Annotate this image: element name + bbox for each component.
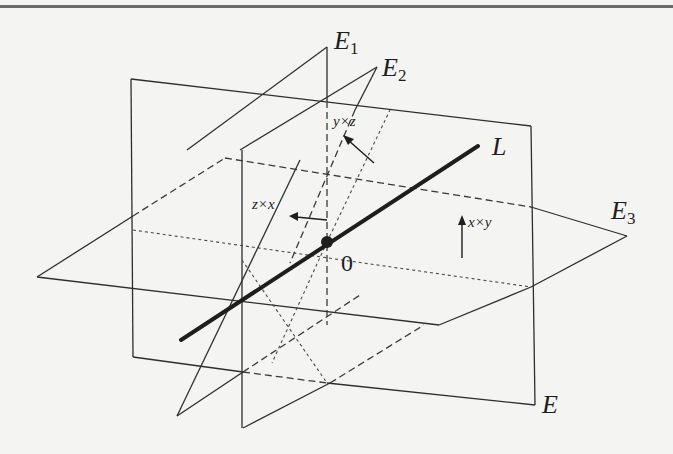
label-x-cross-y: x×y — [468, 214, 491, 231]
label-E2: E2 — [382, 53, 406, 86]
label-origin: 0 — [341, 250, 353, 277]
arrow-z-cross-x — [289, 212, 327, 221]
label-E: E — [542, 390, 558, 420]
label-L: L — [492, 132, 506, 162]
arrow-x-cross-y — [458, 215, 466, 258]
plane-E1 — [187, 47, 424, 428]
planes-diagram — [0, 0, 673, 454]
label-E3: E3 — [611, 196, 635, 229]
label-E1: E1 — [334, 26, 358, 59]
plane-E2 — [177, 67, 390, 416]
origin-dot — [321, 236, 333, 248]
label-y-cross-z: y×z — [333, 113, 356, 130]
label-z-cross-x: z×x — [252, 196, 275, 213]
arrow-y-cross-z — [343, 135, 374, 163]
